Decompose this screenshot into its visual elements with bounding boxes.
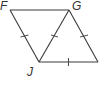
vertex-label-G: G [72, 0, 81, 13]
vertex-label-J: J [26, 65, 34, 79]
vertex-label-F: F [0, 0, 8, 13]
parallelogram-diagram: F G J [0, 0, 99, 85]
